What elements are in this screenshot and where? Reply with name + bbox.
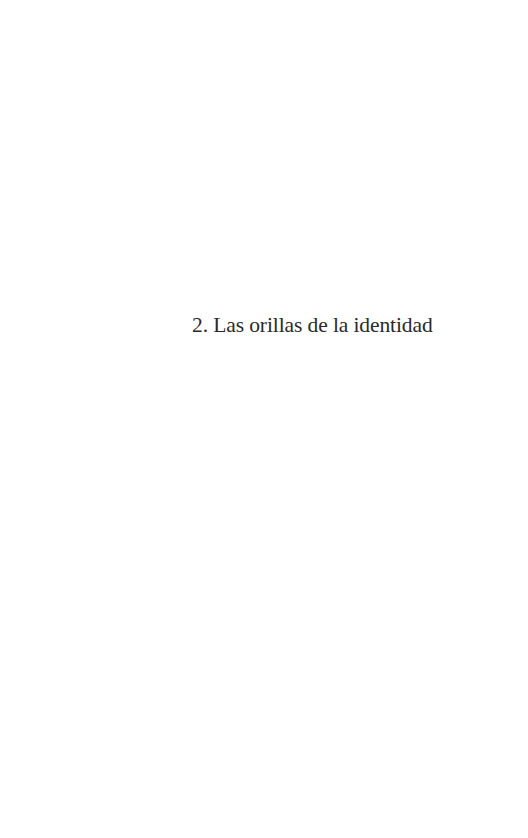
book-page: 2. Las orillas de la identidad bbox=[0, 0, 528, 838]
chapter-heading: 2. Las orillas de la identidad bbox=[192, 311, 433, 339]
